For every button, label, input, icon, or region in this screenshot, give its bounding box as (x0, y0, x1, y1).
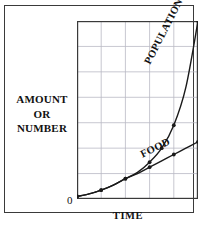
data-point-food (77, 195, 79, 199)
y-axis-caption-line-2: OR (11, 107, 73, 122)
data-point-food (99, 188, 103, 192)
y-axis-caption-line-3: NUMBER (11, 121, 73, 136)
y-axis-caption: AMOUNT OR NUMBER (11, 92, 73, 136)
data-point-food (148, 165, 152, 169)
origin-label: 0 (67, 194, 73, 206)
data-point-food (124, 177, 128, 181)
series-curve-food (77, 142, 198, 197)
y-axis-caption-line-1: AMOUNT (11, 92, 73, 107)
series-layer (77, 21, 198, 198)
x-axis-title: TIME (93, 210, 163, 221)
plot-area (77, 21, 198, 199)
data-point-population (172, 123, 176, 127)
data-point-population (148, 160, 152, 164)
population-food-figure: AMOUNT OR NUMBER 0 TIME POPULATION FOOD (0, 0, 201, 231)
data-point-population (196, 21, 198, 23)
series-curve-population (77, 21, 198, 196)
figure-panel: AMOUNT OR NUMBER 0 TIME POPULATION FOOD (4, 5, 194, 213)
chart-canvas (77, 21, 198, 199)
data-point-food (172, 153, 176, 157)
